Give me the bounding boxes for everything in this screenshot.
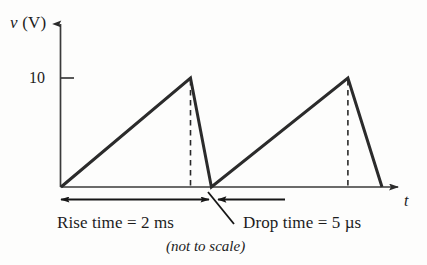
not-to-scale-note: (not to scale) (166, 239, 245, 254)
y-axis-label-unit: (V) (18, 13, 47, 32)
figure-container: v (V) t 10 Rise time = 2 ms Drop time = … (0, 0, 427, 265)
rise-time-caption: Rise time = 2 ms (57, 214, 174, 231)
drop-time-leader-line (208, 192, 234, 224)
y-axis-label: v (V) (10, 14, 46, 31)
y-axis-label-variable: v (10, 13, 18, 32)
drop-time-caption: Drop time = 5 µs (243, 214, 361, 231)
y-tick-label-10: 10 (29, 70, 45, 86)
sawtooth-waveform (61, 78, 382, 187)
x-axis-label: t (404, 193, 408, 209)
